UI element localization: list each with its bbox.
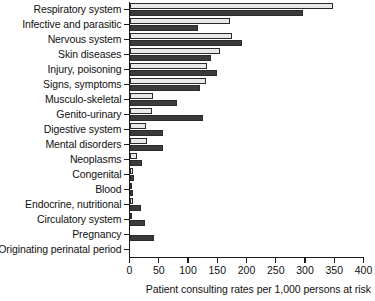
x-axis-tick — [187, 258, 188, 263]
bar-light — [130, 198, 134, 204]
category-label: Endocrine, nutritional — [25, 199, 121, 210]
bar-light — [130, 168, 134, 174]
bar-dark — [130, 70, 218, 76]
bar-dark — [130, 190, 134, 196]
bar-dark — [130, 40, 243, 46]
bar-dark — [130, 220, 145, 226]
bar-dark — [130, 115, 203, 121]
y-axis-tick — [124, 249, 130, 250]
category-label: Skin diseases — [58, 49, 121, 60]
bar-dark — [130, 10, 304, 16]
x-axis-tick — [275, 258, 276, 263]
bar-light — [130, 183, 133, 189]
category-label: Neoplasms — [70, 154, 122, 165]
bar-light — [130, 93, 153, 99]
bar-dark — [130, 160, 142, 166]
bar-dark — [130, 205, 142, 211]
bar-light — [130, 213, 132, 219]
bar-light — [130, 153, 138, 159]
category-label: Signs, symptoms — [43, 79, 121, 90]
bar-light — [130, 48, 221, 54]
category-label: Originating perinatal period — [0, 244, 122, 255]
bar-chart: Respiratory systemInfective and parasiti… — [0, 0, 375, 301]
bar-light — [130, 108, 152, 114]
bar-dark — [130, 130, 164, 136]
bar-dark — [130, 145, 164, 151]
bar-light — [130, 18, 231, 24]
bar-dark — [130, 55, 212, 61]
bar-light — [130, 63, 207, 69]
x-axis-tick — [363, 258, 364, 263]
x-axis-tick — [129, 258, 130, 263]
bar-light — [130, 3, 334, 9]
category-label: Blood — [95, 184, 121, 195]
category-label: Nervous system — [48, 34, 122, 45]
x-axis-tick — [217, 258, 218, 263]
category-label: Mental disorders — [45, 139, 121, 150]
bar-dark — [130, 175, 134, 181]
bar-dark — [130, 100, 178, 106]
bar-light — [130, 138, 148, 144]
bar-light — [130, 123, 146, 129]
category-label: Musculo-skeletal — [45, 94, 122, 105]
x-axis-tick — [246, 258, 247, 263]
x-axis-tick — [334, 258, 335, 263]
category-label: Congenital — [72, 169, 121, 180]
x-axis-tick — [158, 258, 159, 263]
bar-light — [130, 33, 232, 39]
x-axis-tick — [304, 258, 305, 263]
x-axis-title: Patient consulting rates per 1,000 perso… — [0, 283, 371, 296]
category-label: Infective and parasitic — [22, 19, 121, 30]
bar-dark — [130, 25, 198, 31]
category-label: Respiratory system — [33, 4, 121, 15]
x-axis-tick-label: 400 — [344, 264, 375, 276]
category-label: Digestive system — [44, 124, 122, 135]
category-label: Circulatory system — [37, 214, 122, 225]
bar-dark — [130, 85, 200, 91]
category-label: Genito-urinary — [56, 109, 121, 120]
category-label: Pregnancy — [72, 229, 121, 240]
category-label: Injury, poisoning — [48, 64, 122, 75]
bar-light — [130, 78, 206, 84]
bar-dark — [130, 235, 155, 241]
